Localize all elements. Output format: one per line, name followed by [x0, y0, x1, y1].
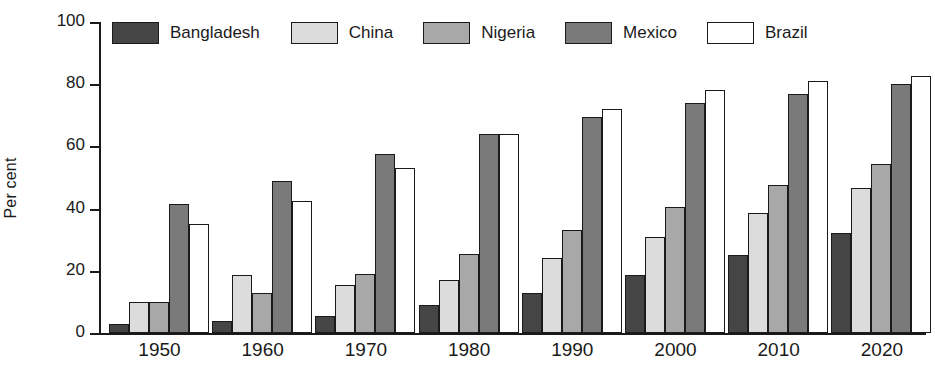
- bar-china-1990: [542, 258, 562, 333]
- y-tick-mark-100: [90, 22, 101, 24]
- bar-nigeria-2010: [768, 185, 788, 333]
- bar-brazil-1990: [602, 109, 622, 333]
- bar-mexico-2000: [685, 103, 705, 333]
- bar-group-1960: 1960: [212, 22, 313, 333]
- y-tick-mark-20: [90, 271, 101, 273]
- y-tick-label-60: 60: [66, 135, 85, 155]
- plot-area: 020406080100 195019601970198019902000201…: [99, 22, 926, 333]
- bar-nigeria-2020: [871, 164, 891, 333]
- bar-china-2010: [748, 213, 768, 333]
- bar-brazil-1950: [189, 224, 209, 333]
- bar-group-1970: 1970: [315, 22, 416, 333]
- bar-bangladesh-1990: [522, 293, 542, 333]
- bar-brazil-2000: [705, 90, 725, 333]
- x-tick-label-1980: 1980: [419, 339, 520, 361]
- bar-brazil-2020: [911, 76, 931, 333]
- bar-nigeria-1960: [252, 293, 272, 333]
- bar-china-1960: [232, 275, 252, 333]
- bar-nigeria-1990: [562, 230, 582, 333]
- bar-china-2020: [851, 188, 871, 333]
- bar-chart: Per cent BangladeshChinaNigeriaMexicoBra…: [0, 0, 935, 391]
- y-tick-mark-60: [90, 146, 101, 148]
- y-tick-label-80: 80: [66, 73, 85, 93]
- bar-brazil-1980: [499, 134, 519, 333]
- y-tick-mark-0: [90, 333, 101, 335]
- bar-bangladesh-1970: [315, 316, 335, 333]
- bar-bangladesh-2020: [831, 233, 851, 333]
- bar-mexico-2020: [891, 84, 911, 333]
- bar-brazil-1970: [395, 168, 415, 333]
- x-tick-label-2000: 2000: [625, 339, 726, 361]
- bar-mexico-1960: [272, 181, 292, 333]
- y-tick-mark-80: [90, 84, 101, 86]
- bar-group-2000: 2000: [625, 22, 726, 333]
- bar-bangladesh-1960: [212, 321, 232, 333]
- y-tick-label-0: 0: [76, 322, 85, 342]
- x-tick-label-1970: 1970: [315, 339, 416, 361]
- bar-china-1950: [129, 302, 149, 333]
- y-tick-label-100: 100: [57, 11, 85, 31]
- y-axis-title: Per cent: [2, 118, 20, 258]
- bar-group-2010: 2010: [728, 22, 829, 333]
- y-tick-label-40: 40: [66, 198, 85, 218]
- bar-china-2000: [645, 237, 665, 333]
- bar-bangladesh-2000: [625, 275, 645, 333]
- bar-group-1980: 1980: [419, 22, 520, 333]
- bar-nigeria-2000: [665, 207, 685, 333]
- x-tick-label-2020: 2020: [831, 339, 932, 361]
- bar-groups: 19501960197019801990200020102020: [101, 22, 926, 333]
- bar-brazil-1960: [292, 201, 312, 333]
- x-tick-label-1950: 1950: [109, 339, 210, 361]
- bar-group-2020: 2020: [831, 22, 932, 333]
- y-tick-label-20: 20: [66, 260, 85, 280]
- bar-group-1990: 1990: [522, 22, 623, 333]
- bar-mexico-2010: [788, 94, 808, 333]
- x-tick-label-1960: 1960: [212, 339, 313, 361]
- bar-brazil-2010: [808, 81, 828, 333]
- bar-bangladesh-2010: [728, 255, 748, 333]
- bar-mexico-1950: [169, 204, 189, 333]
- bar-group-1950: 1950: [109, 22, 210, 333]
- bar-bangladesh-1950: [109, 324, 129, 333]
- x-tick-label-2010: 2010: [728, 339, 829, 361]
- bar-nigeria-1970: [355, 274, 375, 333]
- bar-mexico-1980: [479, 134, 499, 333]
- bar-china-1980: [439, 280, 459, 333]
- x-axis-line: [99, 333, 926, 335]
- y-tick-mark-40: [90, 209, 101, 211]
- bar-nigeria-1980: [459, 254, 479, 333]
- bar-mexico-1970: [375, 154, 395, 333]
- bar-nigeria-1950: [149, 302, 169, 333]
- bar-mexico-1990: [582, 117, 602, 333]
- x-tick-label-1990: 1990: [522, 339, 623, 361]
- bar-china-1970: [335, 285, 355, 333]
- bar-bangladesh-1980: [419, 305, 439, 333]
